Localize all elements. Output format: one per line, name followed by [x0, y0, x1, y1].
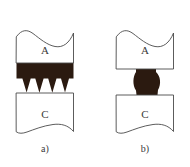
panel-caption-a: a) — [41, 143, 49, 155]
block-label-a-lower: C — [41, 108, 48, 120]
bond-layer-b-neck — [133, 69, 160, 95]
panel-caption-b: b) — [141, 143, 149, 155]
block-label-a-upper: A — [41, 44, 49, 56]
panel-a: A C a) — [17, 31, 74, 156]
panel-b: A C b) — [117, 31, 174, 156]
figure-canvas: A C a) A C b) — [0, 0, 190, 167]
block-label-b-lower: C — [141, 108, 148, 120]
figure-root: A C a) A C b) — [0, 0, 190, 167]
block-label-b-upper: A — [141, 44, 149, 56]
bond-layer-a-sawtooth — [17, 63, 74, 93]
